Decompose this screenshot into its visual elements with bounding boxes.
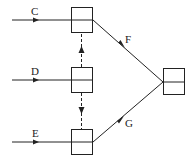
arrow-g-icon	[117, 116, 124, 124]
edge-f-label: F	[125, 33, 131, 45]
edge-f: F	[93, 20, 163, 82]
arrow-down-icon	[79, 107, 85, 114]
input-d: D	[12, 65, 71, 80]
dashed-link-up	[79, 33, 85, 67]
input-d-label: D	[31, 65, 39, 77]
node-bottom	[71, 130, 93, 155]
input-c: C	[12, 5, 71, 20]
node-top	[71, 8, 93, 33]
input-e: E	[12, 127, 71, 142]
input-c-label: C	[31, 5, 38, 17]
arrow-up-icon	[79, 46, 85, 53]
flow-diagram: C D E	[0, 0, 190, 162]
input-e-label: E	[32, 127, 39, 139]
edge-g-label: G	[125, 117, 133, 129]
dashed-link-down	[79, 93, 85, 129]
edge-g: G	[93, 82, 163, 142]
node-middle	[71, 68, 93, 93]
node-right	[163, 69, 185, 95]
